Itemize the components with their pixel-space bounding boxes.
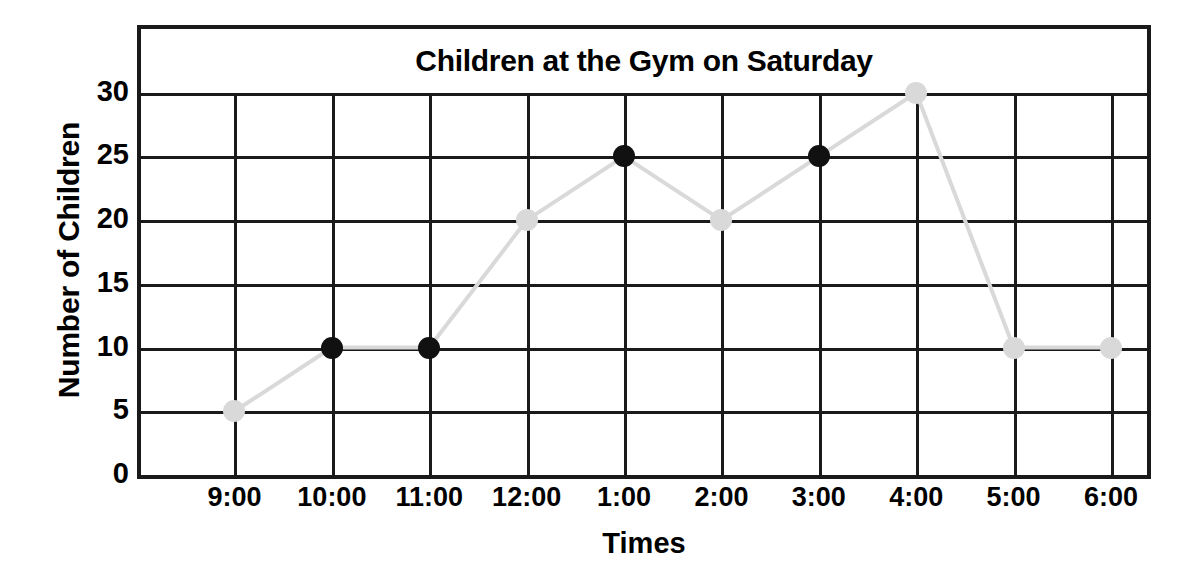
line-chart: Number of Children 051015202530 Children… <box>0 0 1199 577</box>
data-point <box>1100 337 1122 359</box>
y-axis-tick-label: 25 <box>69 140 129 169</box>
data-point <box>321 337 343 359</box>
y-axis-tick-label: 5 <box>69 395 129 424</box>
y-axis-tick-label: 20 <box>69 204 129 233</box>
x-axis-title: Times <box>137 527 1151 560</box>
data-point <box>905 82 927 104</box>
y-axis-tick-label: 10 <box>69 332 129 361</box>
y-axis-tick-label: 15 <box>69 268 129 297</box>
series-polyline <box>234 93 1110 412</box>
y-axis-tick-label: 30 <box>69 77 129 106</box>
data-point <box>418 337 440 359</box>
data-point <box>1003 337 1025 359</box>
data-series <box>141 29 1147 475</box>
plot-area: Children at the Gym on Saturday <box>137 25 1151 479</box>
data-point <box>516 209 538 231</box>
series-line <box>141 29 1147 475</box>
x-axis-tick-label: 6:00 <box>1041 484 1181 511</box>
y-axis-tick-label: 0 <box>69 459 129 488</box>
